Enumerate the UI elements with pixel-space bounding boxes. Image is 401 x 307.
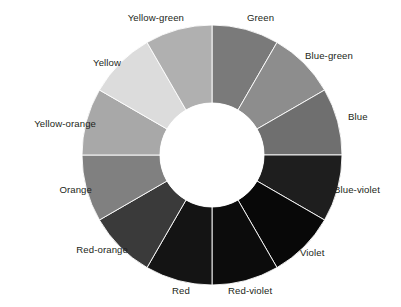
- wheel-label-red-violet: Red-violet: [228, 286, 272, 296]
- wheel-center-hub: [160, 103, 264, 207]
- wheel-label-green: Green: [247, 13, 274, 23]
- wheel-label-yellow-orange: Yellow-orange: [34, 119, 96, 129]
- wheel-label-orange: Orange: [59, 185, 92, 195]
- wheel-label-violet: Violet: [300, 248, 324, 258]
- wheel-label-red: Red: [172, 286, 190, 296]
- wheel-label-blue: Blue: [348, 112, 368, 122]
- wheel-label-yellow-green: Yellow-green: [128, 13, 184, 23]
- wheel-label-red-orange: Red-orange: [76, 245, 128, 255]
- wheel-label-blue-green: Blue-green: [305, 51, 353, 61]
- color-wheel-svg: [0, 0, 401, 307]
- wheel-label-yellow: Yellow: [93, 58, 121, 68]
- wheel-label-blue-violet: Blue-violet: [334, 185, 380, 195]
- color-wheel-figure: GreenBlue-greenBlueBlue-violetVioletRed-…: [0, 0, 401, 307]
